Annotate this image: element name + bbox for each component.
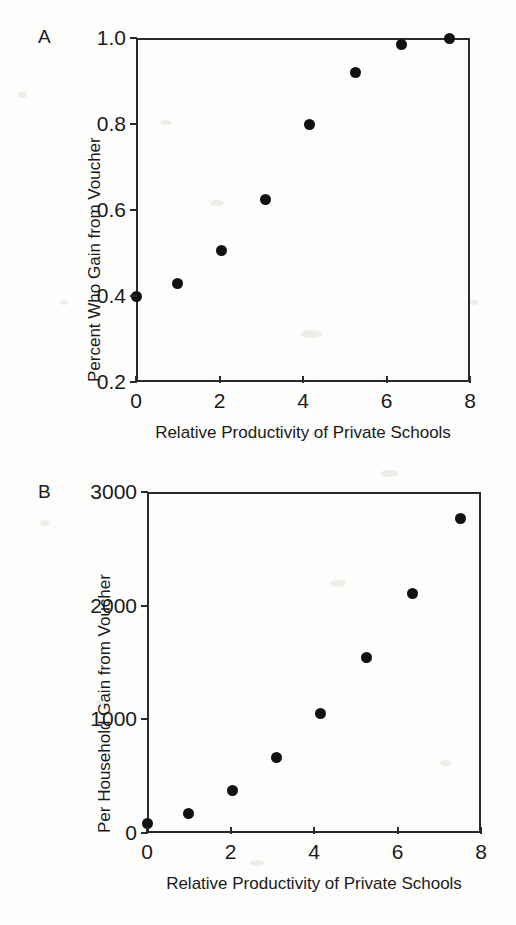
- panel-b-x-tick-label: 2: [201, 841, 261, 862]
- paper-speck: [250, 860, 264, 866]
- panel-b-x-axis-title: Relative Productivity of Private Schools: [147, 875, 481, 892]
- figure-container: A 0.20.40.60.81.002468 Relative Producti…: [0, 0, 516, 925]
- paper-speck: [160, 120, 172, 125]
- panel-b-letter: B: [38, 482, 51, 501]
- panel-b-x-tick-label: 4: [284, 841, 344, 862]
- panel-b: B 010002000300002468 Relative Productivi…: [0, 460, 516, 925]
- panel-b-plot-frame: [147, 492, 481, 833]
- panel-a-x-tick-label: 2: [190, 390, 250, 411]
- panel-b-y-tick-label: 0: [125, 822, 137, 843]
- paper-speck: [330, 580, 346, 587]
- panel-a-letter: A: [38, 27, 51, 46]
- panel-a-x-tick-label: 6: [357, 390, 417, 411]
- paper-speck: [95, 700, 104, 705]
- panel-a-x-axis-title: Relative Productivity of Private Schools: [136, 424, 470, 441]
- paper-speck: [210, 200, 224, 206]
- paper-speck: [18, 92, 27, 98]
- paper-speck: [60, 300, 68, 305]
- panel-a-y-tick-label: 0.8: [97, 113, 126, 134]
- paper-speck: [300, 330, 322, 338]
- panel-a: A 0.20.40.60.81.002468 Relative Producti…: [0, 0, 516, 460]
- panel-b-x-tick-label: 0: [117, 841, 177, 862]
- paper-speck: [380, 470, 398, 477]
- panel-a-x-tick-label: 4: [273, 390, 333, 411]
- paper-speck: [440, 760, 451, 766]
- panel-b-x-tick-label: 6: [368, 841, 428, 862]
- panel-a-x-tick-label: 8: [440, 390, 500, 411]
- paper-speck: [40, 520, 50, 526]
- panel-b-y-tick-label: 3000: [90, 481, 137, 502]
- panel-a-y-axis-title: Percent Who Gain from Voucher: [86, 137, 103, 382]
- paper-speck: [470, 300, 478, 305]
- panel-a-x-tick-label: 0: [106, 390, 166, 411]
- panel-b-x-tick-label: 8: [451, 841, 511, 862]
- panel-a-y-tick-label: 1.0: [97, 27, 126, 48]
